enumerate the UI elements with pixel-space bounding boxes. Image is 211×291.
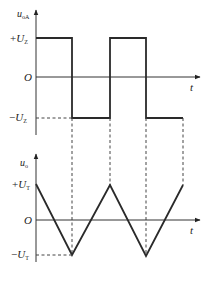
lower-y-axis-label: uo [20, 157, 28, 169]
lower-neg-level-label: −UT [11, 248, 29, 261]
lower-pos-level-label: +UT [12, 178, 30, 191]
upper-plot: uoA t O +UZ −UZ [9, 8, 200, 135]
upper-y-axis-label: uoA [17, 8, 30, 20]
waveform-diagram: uoA t O +UZ −UZ uo t O +UT −UT [0, 0, 211, 291]
lower-plot: uo t O +UT −UT [11, 154, 200, 262]
upper-origin-label: O [24, 71, 32, 83]
square-wave [36, 38, 183, 118]
transition-guides [72, 118, 183, 255]
upper-pos-level-label: +UZ [10, 32, 28, 45]
upper-neg-level-label: −UZ [9, 111, 27, 124]
upper-x-axis-label: t [190, 81, 194, 93]
lower-origin-label: O [24, 214, 32, 226]
lower-x-axis-label: t [190, 224, 194, 236]
